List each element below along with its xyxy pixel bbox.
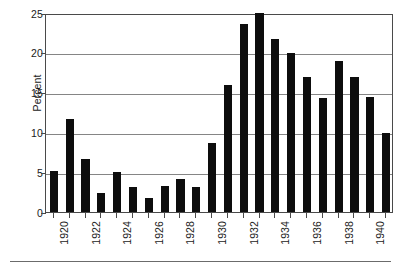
bar [366,97,374,212]
x-axis-tick-mark [290,213,291,218]
bar [97,193,105,212]
x-axis-tick-label: 1926 [153,221,165,263]
bar [240,24,248,212]
x-axis-tick-mark [353,213,354,218]
x-axis-tick-mark [132,213,133,218]
x-axis-tick-mark [69,213,70,218]
bar [129,187,137,212]
x-axis-tick-mark [322,213,323,218]
x-axis-tick-label: 1924 [121,221,133,263]
x-axis-tick-label: 1934 [279,221,291,263]
bar [113,172,121,212]
y-axis-tick-label: 20 [17,48,43,58]
gridline [46,54,392,55]
bar [145,198,153,212]
bar [382,133,390,212]
bar [161,186,169,212]
bar [176,179,184,212]
bar [287,53,295,212]
x-axis-tick-label: 1922 [90,221,102,263]
y-axis-tick-label: 25 [17,9,43,19]
x-axis-tick-mark [274,213,275,218]
x-axis-tick-mark [385,213,386,218]
x-axis-tick-mark [100,213,101,218]
bar [335,61,343,212]
x-axis-tick-mark [53,213,54,218]
bar [81,159,89,212]
bar [255,13,263,212]
x-axis-tick-label: 1920 [58,221,70,263]
y-axis-tick-label: 10 [17,128,43,138]
bar [66,119,74,212]
x-axis-tick-mark [211,213,212,218]
bar-chart-figure: Percent 0510152025 192019221924192619281… [0,0,400,268]
x-axis-tick-mark [85,213,86,218]
x-axis-tick-mark [243,213,244,218]
bar [208,143,216,212]
bar [319,98,327,212]
x-axis-tick-mark [338,213,339,218]
x-axis-tick-mark [179,213,180,218]
x-axis-tick-mark [195,213,196,218]
x-axis-tick-label: 1936 [311,221,323,263]
bar [271,39,279,212]
plot-area [45,14,393,213]
x-axis-tick-label: 1932 [248,221,260,263]
x-axis-tick-mark [227,213,228,218]
x-axis-tick-mark [369,213,370,218]
y-axis-tick-label: 15 [17,88,43,98]
bar [350,77,358,212]
x-axis-tick-mark [164,213,165,218]
bar [224,85,232,212]
bar [50,171,58,212]
x-axis-tick-mark [148,213,149,218]
x-axis-tick-mark [116,213,117,218]
x-axis-tick-mark [306,213,307,218]
y-axis-tick-label: 0 [17,208,43,218]
x-axis-tick-label: 1928 [184,221,196,263]
x-axis-tick-mark [259,213,260,218]
x-axis-tick-label: 1940 [374,221,386,263]
bar [192,187,200,212]
x-axis-tick-label: 1938 [343,221,355,263]
x-axis-tick-label: 1930 [216,221,228,263]
bar [303,77,311,212]
y-axis-tick-label: 5 [17,168,43,178]
footer-rule [10,261,391,262]
